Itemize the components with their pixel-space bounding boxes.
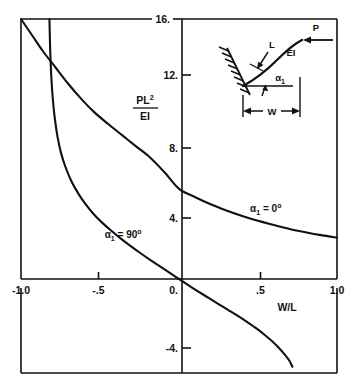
x-tick-label-0: 0. [169,284,178,296]
y-tick-label--4: -4. [166,342,178,354]
inset-label-EI: EI [287,47,296,58]
chart-svg: 16. 12. 8. 4. -4. -1.0 -.5 0. .5 1.0 W/L… [0,0,355,391]
y-axis-title-pl: PL [136,94,150,106]
inset-label-W: W [268,106,277,117]
inset-label-L: L [269,39,275,50]
chart-figure: 16. 12. 8. 4. -4. -1.0 -.5 0. .5 1.0 W/L… [0,0,355,391]
y-tick-label-8: 8. [169,142,178,154]
curve-label-alpha-90deg: α1 = 90o [105,228,142,242]
x-tick-label--1.0: -1.0 [12,284,30,296]
y-axis-title-denominator: EI [140,110,150,122]
curve-label-alpha-0deg-rest: = 0 [260,203,277,214]
chart-background [0,0,355,391]
x-tick-label-0.5: .5 [256,284,265,296]
curve-label-alpha-0deg: α1 = 0o [250,202,281,216]
x-tick-label-1.0: 1.0 [330,284,345,296]
y-tick-label-16: 16. [155,13,170,25]
y-tick-label-4: 4. [169,212,178,224]
curve-label-alpha-0deg-degree: o [277,202,281,209]
inset-label-alpha-sub: 1 [281,78,285,85]
curve-label-alpha-90deg-degree: o [137,228,141,235]
x-axis-title: W/L [277,301,297,313]
curve-label-alpha-90deg-rest: = 90 [115,229,138,240]
y-tick-label-12: 12. [163,69,178,81]
inset-label-P: P [313,22,320,33]
x-tick-label--0.5: -.5 [92,284,104,296]
y-axis-title-exponent: 2 [150,94,154,101]
